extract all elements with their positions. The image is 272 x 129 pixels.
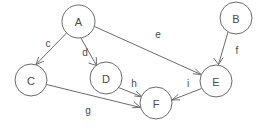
node-E-label: E bbox=[212, 76, 219, 88]
edge-c-line bbox=[36, 33, 67, 65]
node-D[interactable]: D bbox=[90, 62, 122, 94]
node-E[interactable]: E bbox=[200, 65, 232, 97]
node-C[interactable]: C bbox=[15, 64, 47, 96]
edge-c-label: c bbox=[46, 38, 51, 49]
edge-h-label: h bbox=[131, 78, 137, 89]
node-D-label: D bbox=[102, 73, 110, 85]
node-C-label: C bbox=[27, 75, 35, 87]
node-F[interactable]: F bbox=[140, 87, 172, 119]
node-B[interactable]: B bbox=[220, 2, 252, 34]
edge-f-line bbox=[219, 32, 229, 65]
node-A-label: A bbox=[75, 16, 83, 28]
graph-diagram: c d e f bbox=[0, 0, 272, 129]
edge-h-line bbox=[119, 88, 143, 98]
edge-g-label: g bbox=[85, 105, 91, 116]
edge-f[interactable]: f bbox=[214, 32, 239, 65]
edge-e-label: e bbox=[155, 29, 161, 40]
graph-canvas: c d e f bbox=[0, 0, 272, 129]
edge-g[interactable]: g bbox=[47, 85, 141, 116]
node-group: A B C D E F bbox=[15, 2, 252, 119]
node-A[interactable]: A bbox=[62, 5, 95, 38]
node-F-label: F bbox=[153, 98, 160, 110]
edge-i-line bbox=[172, 89, 202, 101]
node-B-label: B bbox=[232, 13, 239, 25]
edge-i-label: i bbox=[187, 78, 189, 89]
edge-i[interactable]: i bbox=[172, 78, 202, 101]
edge-d[interactable]: d bbox=[81, 38, 97, 66]
edge-c[interactable]: c bbox=[36, 33, 67, 65]
edge-d-label: d bbox=[82, 47, 88, 58]
edge-f-label: f bbox=[236, 45, 239, 56]
edge-f-arrowhead bbox=[214, 58, 223, 65]
